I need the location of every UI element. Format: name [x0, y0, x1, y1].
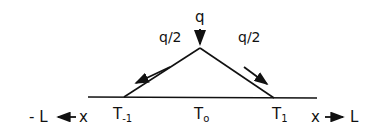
t0-base: T: [194, 105, 203, 123]
left-side: [124, 48, 200, 97]
q-half-right-label: q/2: [238, 30, 261, 44]
t-minus-1-sub: -1: [122, 113, 132, 124]
t0-sub: o: [203, 113, 209, 124]
t1-base: T: [272, 105, 281, 123]
t0-label: To: [194, 107, 209, 124]
right-axis-x: x: [311, 110, 320, 125]
t1-label: T1: [272, 107, 288, 124]
right-flow-arrow: [244, 67, 267, 84]
diagram-lines: [0, 0, 379, 136]
right-side: [200, 48, 274, 98]
t-minus-1-label: T-1: [113, 107, 132, 124]
baseline: [88, 97, 317, 98]
left-axis-minus-L: - L: [29, 110, 48, 125]
q-label: q: [195, 10, 205, 25]
left-axis-x: x: [79, 110, 88, 125]
left-flow-arrow: [136, 67, 170, 83]
right-axis-L: L: [350, 110, 358, 125]
diagram-canvas: q q/2 q/2 T-1 To T1 - L x x L: [0, 0, 379, 136]
t1-sub: 1: [281, 113, 287, 124]
q-half-left-label: q/2: [159, 30, 182, 44]
t-minus-1-base: T: [113, 105, 122, 123]
